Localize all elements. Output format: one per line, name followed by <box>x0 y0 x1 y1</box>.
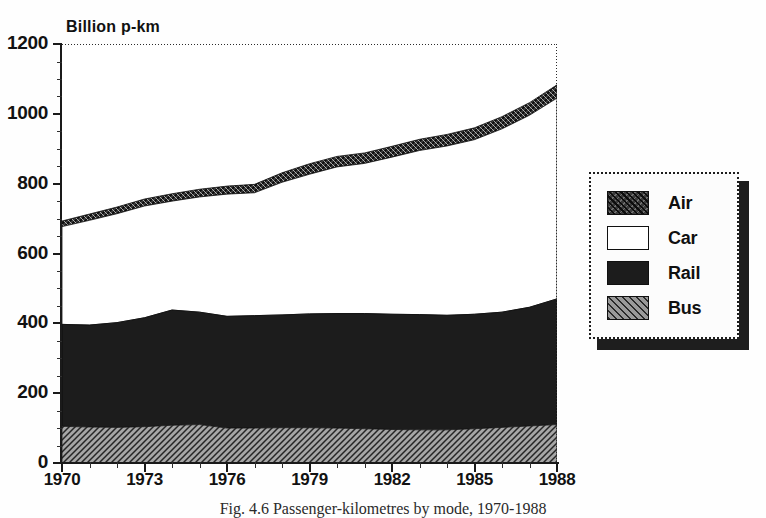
plot-area <box>62 44 557 463</box>
y-tick-label: 800 <box>0 172 48 194</box>
x-tick-minor <box>172 462 173 468</box>
legend-box: AirCarRailBus <box>589 172 739 339</box>
y-tick-minor <box>57 376 62 377</box>
y-tick-minor <box>57 288 62 289</box>
y-tick-label: 400 <box>0 311 48 333</box>
figure-caption: Fig. 4.6 Passenger-kilometres by mode, 1… <box>0 500 766 518</box>
stacked-area-svg <box>62 44 557 463</box>
car-swatch <box>607 226 649 250</box>
y-tick-minor <box>57 306 62 307</box>
x-tick-label: 1970 <box>32 470 92 490</box>
x-tick-label: 1976 <box>197 470 257 490</box>
x-tick-minor <box>365 462 366 468</box>
y-tick-major <box>53 253 62 255</box>
legend-item-rail[interactable]: Rail <box>607 260 729 286</box>
legend-label: Car <box>668 229 697 247</box>
x-tick-minor <box>420 462 421 468</box>
y-tick-minor <box>57 201 62 202</box>
x-tick-minor <box>282 462 283 468</box>
y-tick-minor <box>57 428 62 429</box>
y-tick-minor <box>57 411 62 412</box>
x-tick-minor <box>255 462 256 468</box>
chart-legend: AirCarRailBus <box>589 172 741 341</box>
plot-right-border <box>556 44 557 463</box>
legend-label: Air <box>668 194 692 212</box>
x-tick-minor <box>117 462 118 468</box>
y-tick-minor <box>57 62 62 63</box>
y-tick-minor <box>57 341 62 342</box>
x-tick-minor <box>90 462 91 468</box>
y-tick-label: 1000 <box>0 102 48 124</box>
y-tick-minor <box>57 271 62 272</box>
air-swatch <box>607 191 649 215</box>
legend-item-bus[interactable]: Bus <box>607 295 729 321</box>
x-tick-minor <box>502 462 503 468</box>
y-tick-major <box>53 43 62 45</box>
x-tick-label: 1988 <box>527 470 587 490</box>
x-tick-label: 1979 <box>280 470 340 490</box>
y-tick-minor <box>57 446 62 447</box>
legend-item-air[interactable]: Air <box>607 190 729 216</box>
legend-item-car[interactable]: Car <box>607 225 729 251</box>
y-tick-minor <box>57 149 62 150</box>
x-tick-label: 1982 <box>362 470 422 490</box>
x-tick-minor <box>337 462 338 468</box>
bus-swatch <box>607 296 649 320</box>
y-tick-major <box>53 183 62 185</box>
x-tick-label: 1985 <box>445 470 505 490</box>
legend-label: Rail <box>668 264 700 282</box>
x-tick-minor <box>530 462 531 468</box>
y-tick-minor <box>57 219 62 220</box>
y-tick-minor <box>57 79 62 80</box>
y-tick-label: 1200 <box>0 32 48 54</box>
y-tick-label: 200 <box>0 381 48 403</box>
x-tick-label: 1973 <box>115 470 175 490</box>
y-tick-label: 600 <box>0 242 48 264</box>
x-tick-minor <box>447 462 448 468</box>
y-tick-minor <box>57 96 62 97</box>
y-tick-major <box>53 392 62 394</box>
y-tick-minor <box>57 131 62 132</box>
legend-label: Bus <box>668 299 701 317</box>
y-tick-minor <box>57 358 62 359</box>
plot-top-border <box>62 44 557 45</box>
y-tick-minor <box>57 236 62 237</box>
y-axis-unit-label: Billion p-km <box>66 18 160 36</box>
area-layers <box>62 85 557 463</box>
rail-swatch <box>607 261 649 285</box>
y-tick-minor <box>57 166 62 167</box>
y-tick-major <box>53 322 62 324</box>
x-tick-minor <box>200 462 201 468</box>
area-series-bus <box>62 425 557 463</box>
y-tick-major <box>53 113 62 115</box>
